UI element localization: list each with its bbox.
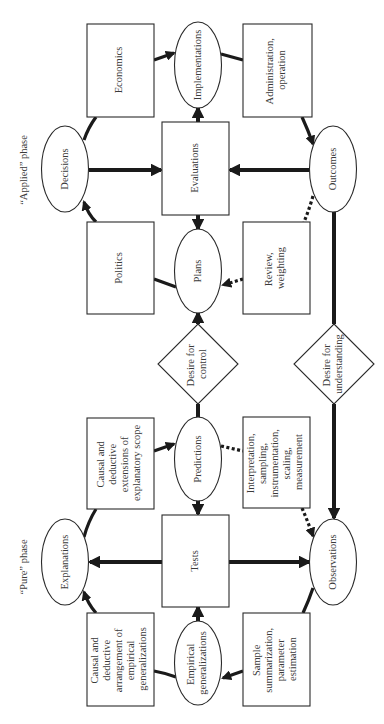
node-decisions: Decisions xyxy=(42,126,89,212)
svg-text:Tests: Tests xyxy=(189,550,200,571)
node-sample-label-4: estimation xyxy=(287,636,298,680)
edge-empirical-arrangement xyxy=(154,671,176,677)
node-politics-label: Politics xyxy=(113,252,124,284)
svg-text:Predictions: Predictions xyxy=(192,435,203,482)
node-economics-label: Economics xyxy=(113,47,124,94)
node-interpretation-label-2: sampling, xyxy=(257,443,268,484)
svg-text:Observations: Observations xyxy=(327,534,338,589)
edge-predictions-interpretation xyxy=(221,446,243,451)
node-sample-label-1: Sample xyxy=(251,644,262,676)
node-decisions-label: Decisions xyxy=(59,148,70,189)
node-review-label-1: Review, xyxy=(263,252,274,286)
edge-administration-outcomes xyxy=(302,117,313,144)
node-desire-control-label-2: control xyxy=(197,349,208,379)
svg-text:Evaluations: Evaluations xyxy=(189,143,200,193)
edge-politics-decisions xyxy=(84,202,96,222)
edge-outcomes-review xyxy=(304,196,313,222)
node-desire-understanding: Desire for understanding xyxy=(294,324,374,404)
node-economics: Economics xyxy=(87,24,154,117)
node-empirical-label-1: Empirical xyxy=(185,644,196,685)
node-outcomes-label: Outcomes xyxy=(327,148,338,191)
svg-text:Explanations: Explanations xyxy=(59,535,70,590)
node-implementations-label: Implementations xyxy=(192,30,203,101)
node-desire-control-label-1: Desire for xyxy=(185,344,196,387)
edge-extensions-predictions xyxy=(154,444,174,451)
node-extensions-label-2: deductive xyxy=(107,444,118,485)
svg-text:Implementations: Implementations xyxy=(192,30,203,101)
node-arrangement-label-3: arrangement of xyxy=(113,628,124,692)
node-arrangement-label-5: generalizations xyxy=(137,627,148,691)
research-cycle-diagram: Economics Administration, operation Eval… xyxy=(0,0,384,724)
edge-economics-implementations xyxy=(154,53,174,60)
svg-text:Politics: Politics xyxy=(113,252,124,284)
edge-decisions-economics xyxy=(84,117,96,140)
svg-text:Desire for understanding: Desire for understanding xyxy=(321,334,344,394)
node-arrangement: Causal and deductive arrangement of empi… xyxy=(87,613,154,706)
svg-text:Causal and deductive: Causal and deductive arrangement of empi… xyxy=(89,626,148,692)
node-interpretation-label-1: Interpretation, xyxy=(245,433,256,493)
pure-phase-label: “Pure” phase xyxy=(18,539,29,594)
node-extensions-label-3: extensions of xyxy=(119,436,130,492)
node-administration: Administration, operation xyxy=(243,24,312,117)
svg-text:Economics: Economics xyxy=(113,47,124,94)
edge-sample-empirical xyxy=(223,671,243,678)
svg-text:Decisions: Decisions xyxy=(59,148,70,189)
node-review-label-2: weighting xyxy=(275,246,286,289)
node-interpretation: Interpretation, sampling, instrumentatio… xyxy=(243,417,310,508)
edge-plans-politics xyxy=(154,279,176,287)
node-extensions-label-1: Causal and xyxy=(95,440,106,487)
node-sample-label-2: summarization, xyxy=(263,628,274,693)
node-tests: Tests xyxy=(162,515,229,607)
node-interpretation-label-3: instrumentation, xyxy=(269,429,280,498)
applied-phase-label: “Applied” phase xyxy=(18,135,29,205)
node-politics: Politics xyxy=(87,222,154,314)
svg-text:Outcomes: Outcomes xyxy=(327,148,338,191)
node-arrangement-label-2: deductive xyxy=(101,640,112,681)
node-arrangement-label-1: Causal and xyxy=(89,636,100,683)
node-explanations: Explanations xyxy=(42,519,89,605)
node-predictions-label: Predictions xyxy=(192,435,203,482)
node-desire-understanding-label-2: understanding xyxy=(333,334,344,394)
node-plans: Plans xyxy=(175,229,222,313)
node-plans-label: Plans xyxy=(192,260,203,283)
edge-observations-sample xyxy=(303,588,313,613)
node-extensions: Causal and deductive extensions of expla… xyxy=(87,418,154,509)
node-evaluations-label: Evaluations xyxy=(189,143,200,193)
edge-implementations-administration xyxy=(221,54,243,60)
svg-text:Review, weighting: Review, weighting xyxy=(263,246,286,289)
svg-text:Interpretation, sampling: Interpretation, sampling, instrumentatio… xyxy=(245,426,304,497)
node-administration-label-1: Administration, xyxy=(264,38,275,104)
node-explanations-label: Explanations xyxy=(59,535,70,590)
node-predictions: Predictions xyxy=(175,417,222,501)
edge-interpretation-observations xyxy=(302,508,313,536)
node-empirical: Empirical generalizations xyxy=(175,621,222,705)
node-observations-label: Observations xyxy=(327,534,338,589)
node-interpretation-label-4: scaling, xyxy=(281,447,292,479)
node-evaluations: Evaluations xyxy=(162,122,229,215)
node-observations: Observations xyxy=(310,519,357,605)
edge-review-plans xyxy=(223,279,243,285)
svg-text:Plans: Plans xyxy=(192,260,203,283)
node-sample: Sample summarization, parameter estimati… xyxy=(243,613,310,706)
edge-explanations-extensions xyxy=(84,509,96,537)
node-desire-understanding-label-1: Desire for xyxy=(321,344,332,387)
node-review: Review, weighting xyxy=(243,222,310,314)
node-administration-label-2: operation xyxy=(276,49,287,89)
node-extensions-label-4: explanatory scope xyxy=(131,425,142,501)
node-interpretation-label-5: measurement xyxy=(293,434,304,490)
edge-arrangement-explanations xyxy=(84,592,96,613)
node-outcomes: Outcomes xyxy=(310,126,357,212)
node-tests-label: Tests xyxy=(189,550,200,571)
node-arrangement-label-4: empirical xyxy=(125,640,136,680)
node-desire-control: Desire for control xyxy=(158,324,238,404)
node-empirical-label-2: generalizations xyxy=(197,631,208,695)
node-sample-label-3: parameter xyxy=(275,639,286,681)
node-implementations: Implementations xyxy=(175,22,222,108)
